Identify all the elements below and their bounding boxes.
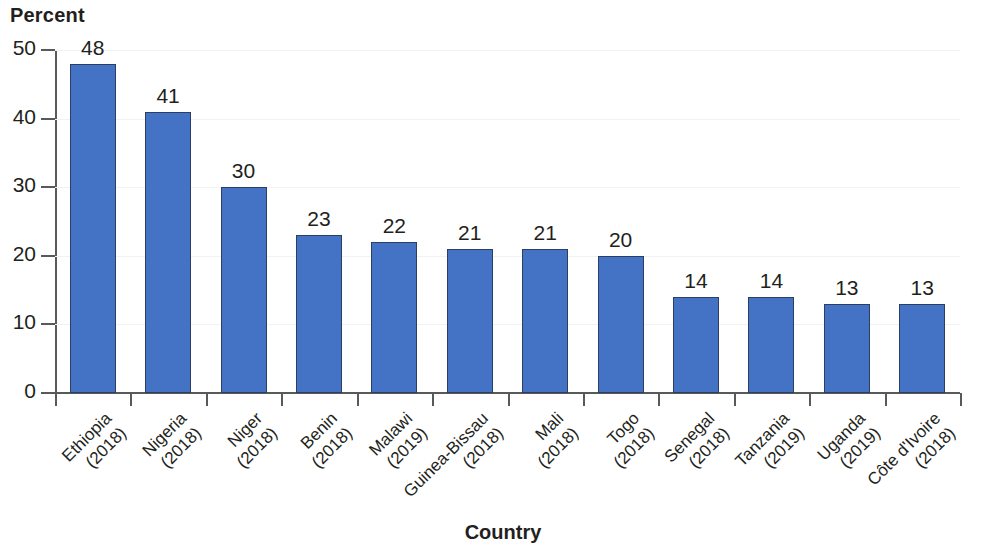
y-axis-tick-label: 10 [0,310,36,334]
x-axis-tick [960,393,962,406]
x-axis-tick [734,393,736,406]
bar [145,112,191,393]
y-axis-tick [41,392,55,394]
bar-value-label: 23 [279,207,359,231]
plot-area: 484130232221212014141313 [55,50,960,393]
x-axis-tick [206,393,208,406]
bar-value-label: 14 [731,269,811,293]
bar [899,304,945,393]
y-axis-tick [41,255,55,257]
bar-value-label: 21 [430,221,510,245]
bar [447,249,493,393]
x-axis-title: Country [0,521,1006,544]
bar-chart: Percent 484130232221212014141313 0102030… [0,0,1006,551]
y-axis-tick [41,118,55,120]
x-axis-tick [357,393,359,406]
bar-value-label: 21 [505,221,585,245]
bar-value-label: 13 [882,276,962,300]
x-axis-tick [658,393,660,406]
bar [371,242,417,393]
bar [70,64,116,393]
bar-value-label: 41 [128,84,208,108]
bar-value-label: 20 [581,228,661,252]
y-axis-tick [41,323,55,325]
x-axis-tick [583,393,585,406]
bar [748,297,794,393]
y-axis-tick-label: 40 [0,105,36,129]
y-axis-tick-label: 0 [0,379,36,403]
x-axis-tick [281,393,283,406]
y-axis-tick [41,49,55,51]
x-axis-tick [130,393,132,406]
bar-value-label: 14 [656,269,736,293]
bar-value-label: 48 [53,36,133,60]
bar [522,249,568,393]
bar [296,235,342,393]
bar [824,304,870,393]
x-axis-tick [432,393,434,406]
bar [221,187,267,393]
x-axis-tick [508,393,510,406]
y-axis-tick-label: 50 [0,36,36,60]
x-axis-tick [885,393,887,406]
gridline [55,50,960,51]
y-axis-tick-label: 30 [0,173,36,197]
x-axis-tick [809,393,811,406]
y-axis-tick-label: 20 [0,242,36,266]
y-axis-title: Percent [10,4,85,27]
bar [598,256,644,393]
y-axis-tick [41,186,55,188]
bar-value-label: 22 [354,214,434,238]
bar-value-label: 13 [807,276,887,300]
bar-value-label: 30 [204,159,284,183]
bar [673,297,719,393]
x-axis-tick [55,393,57,406]
